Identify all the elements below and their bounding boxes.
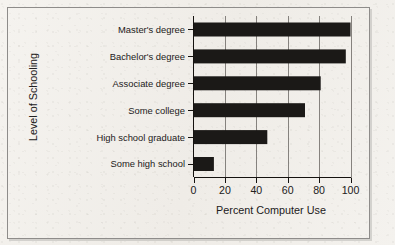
bar-some-college: [194, 103, 306, 117]
axes-group: [194, 16, 351, 178]
bar-bachelor-s-degree: [194, 49, 346, 63]
bar-chart: Master's degreeBachelor's degreeAssociat…: [0, 0, 395, 245]
bar-some-high-school: [194, 157, 214, 171]
category-label-4: High school graduate: [96, 132, 185, 143]
gridlines-group: [226, 16, 352, 178]
category-label-1: Bachelor's degree: [110, 51, 185, 62]
category-labels-group: Master's degreeBachelor's degreeAssociat…: [96, 24, 185, 170]
bars-group: [194, 23, 351, 172]
x-tick-labels-group: 020406080100: [191, 184, 360, 196]
x-tick-label-20: 20: [219, 184, 231, 196]
y-tick-marks-group: [188, 30, 194, 165]
x-axis-title: Percent Computer Use: [216, 204, 326, 216]
bar-master-s-degree: [194, 23, 351, 37]
bar-high-school-graduate: [194, 130, 268, 144]
x-tick-label-0: 0: [191, 184, 197, 196]
x-tick-marks-group: [195, 178, 352, 183]
x-tick-label-40: 40: [250, 184, 262, 196]
x-tick-label-80: 80: [313, 184, 325, 196]
category-label-0: Master's degree: [118, 24, 185, 35]
category-label-2: Associate degree: [113, 78, 185, 89]
bar-associate-degree: [194, 76, 321, 90]
y-axis-title: Level of Schooling: [27, 53, 39, 141]
x-tick-label-100: 100: [342, 184, 360, 196]
category-label-3: Some college: [128, 105, 185, 116]
category-label-5: Some high school: [110, 158, 185, 169]
x-tick-label-60: 60: [282, 184, 294, 196]
